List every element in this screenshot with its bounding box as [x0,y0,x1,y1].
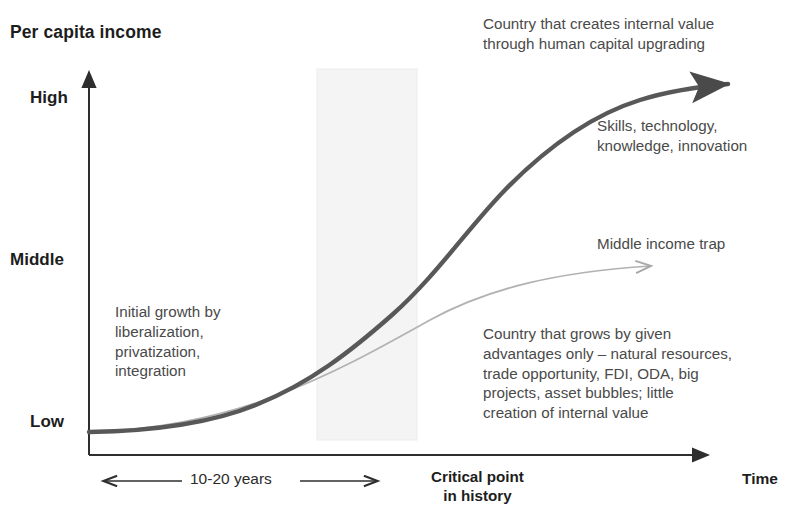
y-tick-high: High [30,88,68,109]
y-tick-middle: Middle [10,250,64,271]
timespan-label: 10-20 years [190,470,272,489]
diagram-svg [0,0,799,514]
diagram-canvas: Per capita income High Middle Low Time C… [0,0,799,514]
annotation-skills: Skills, technology, knowledge, innovatio… [597,116,747,156]
annotation-initial-growth: Initial growth by liberalization, privat… [115,302,221,381]
x-axis-title: Time [742,470,778,489]
y-axis-title: Per capita income [10,22,161,43]
annotation-middle-income-trap: Middle income trap [597,234,725,254]
annotation-given-advantages: Country that grows by given advantages o… [483,324,732,423]
annotation-internal-value: Country that creates internal value thro… [483,14,714,54]
critical-point-label: Critical point in history [431,468,524,505]
y-tick-low: Low [30,412,64,433]
critical-point-band [317,69,417,440]
